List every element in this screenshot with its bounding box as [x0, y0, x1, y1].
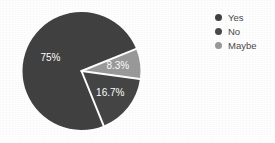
legend-label-maybe: Maybe	[228, 39, 257, 52]
legend-swatch-maybe-icon	[215, 42, 222, 49]
legend-item-maybe[interactable]: Maybe	[215, 39, 273, 52]
legend-label-yes: Yes	[228, 11, 244, 24]
legend-item-yes[interactable]: Yes	[215, 11, 273, 24]
pie-label-no: 16.7%	[96, 87, 124, 98]
legend-swatch-yes-icon	[215, 14, 222, 21]
legend-item-no[interactable]: No	[215, 25, 273, 38]
pie-chart-figure: 75% 16.7% 8.3% Yes No Maybe	[0, 0, 275, 143]
legend-label-no: No	[228, 25, 240, 38]
chart-legend: Yes No Maybe	[215, 11, 273, 53]
pie-label-yes: 75%	[40, 52, 60, 63]
pie-label-maybe: 8.3%	[106, 60, 129, 71]
legend-swatch-no-icon	[215, 28, 222, 35]
